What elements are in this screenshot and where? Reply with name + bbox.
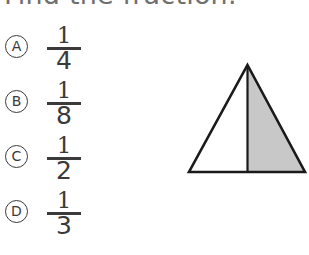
- fraction-d: 1 3: [44, 187, 84, 239]
- fraction-b: 1 8: [44, 77, 84, 129]
- fraction-numerator: 1: [44, 78, 84, 102]
- choice-letter-d[interactable]: D: [5, 200, 28, 223]
- fraction-denominator: 2: [44, 157, 84, 185]
- fraction-numerator: 1: [44, 23, 84, 47]
- answer-choice-d[interactable]: D 1 3: [0, 187, 120, 239]
- fraction-numerator: 1: [44, 133, 84, 157]
- fraction-numerator: 1: [44, 188, 84, 212]
- choice-letter-c[interactable]: C: [5, 145, 28, 168]
- fraction-a: 1 4: [44, 22, 84, 74]
- fraction-denominator: 4: [44, 47, 84, 75]
- triangle-figure: [178, 56, 309, 180]
- fraction-denominator: 3: [44, 212, 84, 240]
- answer-choice-c[interactable]: C 1 2: [0, 132, 120, 184]
- answer-choice-a[interactable]: A 1 4: [0, 22, 120, 74]
- fraction-denominator: 8: [44, 102, 84, 130]
- answer-choice-b[interactable]: B 1 8: [0, 77, 120, 129]
- page-title: Find the fraction.: [4, 0, 304, 10]
- choice-letter-a[interactable]: A: [5, 35, 28, 58]
- choice-letter-b[interactable]: B: [5, 90, 28, 113]
- worksheet-page: Find the fraction. A 1 4 B 1 8 C 1 2: [0, 0, 309, 255]
- triangle-diagram-svg: [178, 56, 309, 180]
- fraction-c: 1 2: [44, 132, 84, 184]
- answer-choice-list: A 1 4 B 1 8 C 1 2 D: [0, 22, 120, 252]
